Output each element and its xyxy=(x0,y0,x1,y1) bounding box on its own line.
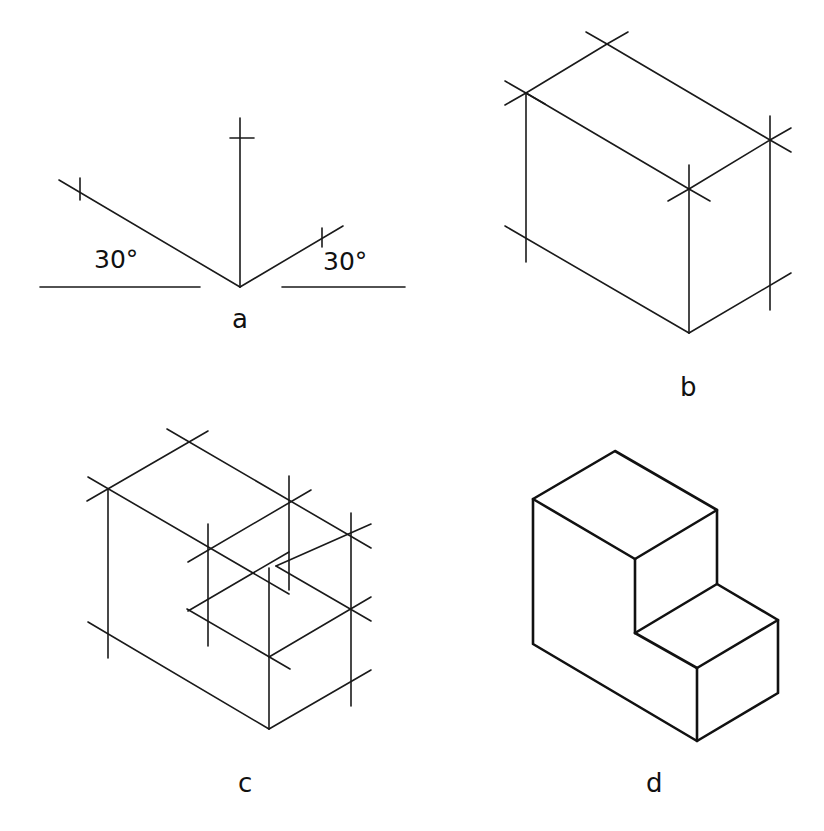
panel-b-box: b xyxy=(505,32,791,402)
object-edge xyxy=(533,499,635,559)
panel-a-axes: 30° 30° a xyxy=(40,118,405,334)
panel-label-d: d xyxy=(646,768,663,798)
construction-line xyxy=(167,429,371,548)
object-edge xyxy=(635,633,697,668)
object-edge xyxy=(635,584,717,633)
construction-line xyxy=(88,477,289,594)
box-top-face xyxy=(526,44,770,189)
construction-line xyxy=(187,609,290,669)
object-edge xyxy=(635,510,717,559)
isometric-figure: 30° 30° a b xyxy=(0,0,824,831)
right-angle-label: 30° xyxy=(323,247,367,276)
construction-line xyxy=(188,490,311,562)
construction-line xyxy=(276,566,371,621)
left-angle-label: 30° xyxy=(94,245,138,274)
corner-mark xyxy=(586,32,607,44)
panel-d-finished-object: d xyxy=(533,451,778,798)
left-isometric-axis xyxy=(59,180,240,287)
construction-line xyxy=(276,524,371,566)
corner-mark xyxy=(607,32,628,44)
panel-label-a: a xyxy=(232,304,248,334)
corner-mark xyxy=(770,140,791,152)
box-bottom-left-edge xyxy=(505,226,689,333)
object-edge xyxy=(697,620,778,668)
construction-line xyxy=(188,552,289,611)
panel-label-b: b xyxy=(680,372,697,402)
corner-mark xyxy=(668,189,689,201)
construction-line xyxy=(269,597,371,657)
construction-line xyxy=(88,622,269,729)
corner-mark xyxy=(770,128,791,140)
object-outline xyxy=(533,451,778,741)
box-bottom-right-edge xyxy=(689,273,791,333)
corner-mark xyxy=(689,189,710,201)
panel-c-construction: c xyxy=(87,429,371,798)
construction-line xyxy=(269,670,371,729)
corner-mark xyxy=(505,93,526,105)
panel-label-c: c xyxy=(238,768,252,798)
